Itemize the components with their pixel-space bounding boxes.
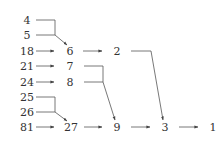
edge-25-to-27 bbox=[36, 97, 55, 112]
node-25: 25 bbox=[20, 92, 34, 104]
node-26: 26 bbox=[20, 107, 34, 119]
node-3: 3 bbox=[162, 122, 169, 134]
node-24: 24 bbox=[20, 77, 34, 89]
edge-26-to-27 bbox=[36, 112, 67, 121]
node-4: 4 bbox=[24, 15, 31, 27]
edge-4-to-6 bbox=[36, 20, 55, 35]
node-2: 2 bbox=[114, 46, 121, 58]
node-8: 8 bbox=[67, 77, 74, 89]
node-9: 9 bbox=[114, 122, 121, 134]
node-5: 5 bbox=[24, 30, 31, 42]
node-27: 27 bbox=[64, 122, 78, 134]
node-7: 7 bbox=[67, 61, 74, 73]
edge-2-to-3 bbox=[131, 51, 163, 120]
node-21: 21 bbox=[20, 61, 34, 73]
node-18: 18 bbox=[20, 46, 34, 58]
node-1: 1 bbox=[210, 122, 217, 134]
node-81: 81 bbox=[20, 122, 34, 134]
node-6: 6 bbox=[67, 46, 74, 58]
merge-tree-diagram: 4 5 18 21 24 25 26 81 6 7 8 27 2 9 3 1 bbox=[0, 0, 224, 144]
edge-7-to-9 bbox=[84, 66, 103, 82]
edge-5-to-6 bbox=[36, 35, 67, 45]
edge-8-to-9 bbox=[84, 82, 115, 120]
